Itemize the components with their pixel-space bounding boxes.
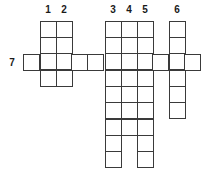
grid-cell-6-down-6[interactable]: [169, 102, 186, 119]
grid-cell-3-down-6[interactable]: [105, 102, 122, 119]
clue-number-4: 4: [121, 5, 137, 15]
grid-cell-4-down-1[interactable]: [121, 21, 138, 38]
grid-cell-4-down-5[interactable]: [121, 86, 138, 103]
grid-cell-5-down-9[interactable]: [137, 151, 154, 168]
grid-cell-5-down-8[interactable]: [137, 135, 154, 152]
grid-cell-3-down-5[interactable]: [105, 86, 122, 103]
clue-number-5: 5: [137, 5, 153, 15]
clue-number-2: 2: [56, 5, 72, 15]
grid-cell-6-down-5[interactable]: [169, 86, 186, 103]
grid-cell-4-down-7[interactable]: [121, 119, 138, 136]
grid-cell-1-down-1[interactable]: [40, 21, 57, 38]
grid-cell-3-down-7[interactable]: [105, 119, 122, 136]
grid-cell-5-down-2[interactable]: [137, 37, 154, 54]
grid-cell-7-across-9[interactable]: [152, 54, 169, 71]
grid-cell-2-down-4[interactable]: [56, 70, 73, 87]
grid-cell-6-down-1[interactable]: [169, 21, 186, 38]
grid-cell-4-down-4[interactable]: [121, 70, 138, 87]
grid-cell-6-down-4[interactable]: [169, 70, 186, 87]
grid-cell-7-across-11[interactable]: [184, 54, 201, 71]
grid-cell-7-across-4[interactable]: [71, 54, 88, 71]
grid-cell-1-down-3[interactable]: [40, 53, 57, 70]
grid-cell-4-down-6[interactable]: [121, 102, 138, 119]
crossword-grid: 1234567: [0, 0, 209, 176]
grid-cell-4-down-2[interactable]: [121, 37, 138, 54]
grid-cell-3-down-1[interactable]: [105, 21, 122, 38]
grid-cell-5-down-4[interactable]: [137, 70, 154, 87]
clue-number-1: 1: [40, 5, 56, 15]
grid-cell-3-down-4[interactable]: [105, 70, 122, 87]
grid-cell-3-down-2[interactable]: [105, 37, 122, 54]
clue-number-6: 6: [169, 5, 185, 15]
grid-cell-3-down-3[interactable]: [105, 53, 122, 70]
grid-cell-5-down-1[interactable]: [137, 21, 154, 38]
grid-cell-2-down-1[interactable]: [56, 21, 73, 38]
grid-cell-1-down-2[interactable]: [40, 37, 57, 54]
grid-cell-5-down-5[interactable]: [137, 86, 154, 103]
clue-number-7: 7: [4, 58, 20, 68]
grid-cell-3-down-8[interactable]: [105, 135, 122, 152]
grid-cell-4-down-3[interactable]: [121, 53, 138, 70]
grid-cell-1-down-4[interactable]: [40, 70, 57, 87]
grid-cell-2-down-2[interactable]: [56, 37, 73, 54]
grid-cell-7-across-1[interactable]: [23, 54, 40, 71]
grid-cell-7-across-5[interactable]: [87, 54, 104, 71]
clue-number-3: 3: [105, 5, 121, 15]
grid-cell-3-down-9[interactable]: [105, 151, 122, 168]
grid-cell-6-down-2[interactable]: [169, 37, 186, 54]
grid-cell-5-down-6[interactable]: [137, 102, 154, 119]
grid-cell-5-down-7[interactable]: [137, 119, 154, 136]
